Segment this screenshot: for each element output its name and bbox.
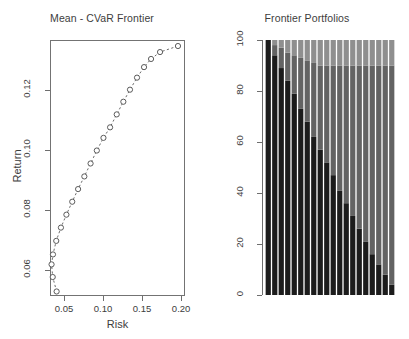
portfolio-bar-segment <box>305 60 310 121</box>
portfolio-bar-segment <box>376 264 381 295</box>
frontier-point <box>101 135 106 140</box>
portfolio-y-tick-label: 60 <box>234 126 245 156</box>
portfolio-bar-segment <box>298 40 303 58</box>
portfolio-bar-segment <box>285 53 290 81</box>
y-tick-mark <box>45 150 50 151</box>
portfolio-bar-segment <box>370 40 375 66</box>
y-tick-label: 0.08 <box>21 193 32 225</box>
portfolio-bar-segment <box>337 190 342 295</box>
portfolio-bar-segment <box>389 66 394 285</box>
portfolio-bar-segment <box>311 137 316 295</box>
portfolio-bar-segment <box>337 66 342 191</box>
portfolio-y-axis-line <box>262 40 263 295</box>
frontier-point <box>82 174 87 179</box>
portfolio-y-tick-label: 100 <box>234 24 245 54</box>
portfolio-bar-segment <box>383 66 388 275</box>
portfolio-bar-segment <box>363 241 368 295</box>
portfolio-bar-segment <box>389 285 394 295</box>
portfolio-bar-segment <box>279 68 284 295</box>
portfolio-bar-segment <box>272 40 277 45</box>
portfolio-y-tick-mark <box>257 244 262 245</box>
frontier-data-points <box>49 43 181 294</box>
frontier-point <box>70 199 75 204</box>
portfolio-bar-segment <box>305 40 310 60</box>
frontier-point <box>64 212 69 217</box>
frontier-point <box>50 274 55 279</box>
frontier-point <box>141 65 146 70</box>
frontier-point <box>54 289 59 294</box>
frontier-point <box>148 56 153 61</box>
portfolio-bar-segment <box>279 48 284 68</box>
frontier-point <box>121 99 126 104</box>
portfolio-bar-segment <box>370 66 375 255</box>
portfolio-bar-segment <box>357 66 362 229</box>
x-tick-label: 0.15 <box>122 303 162 314</box>
x-tick-label: 0.05 <box>44 303 84 314</box>
portfolio-bar-segment <box>389 40 394 66</box>
y-tick-label: 0.12 <box>21 72 32 104</box>
portfolio-y-tick-label: 20 <box>234 228 245 258</box>
frontier-point <box>75 186 80 191</box>
portfolio-y-tick-label: 80 <box>234 75 245 105</box>
frontier-point <box>94 148 99 153</box>
portfolio-bar-segment <box>318 66 323 150</box>
portfolio-bar-segment <box>344 203 349 295</box>
portfolio-bar-segment <box>383 40 388 66</box>
portfolio-bar-segment <box>318 40 323 66</box>
portfolio-y-tick-mark <box>257 295 262 296</box>
left-panel-title: Mean - CVaR Frontier <box>0 12 204 24</box>
portfolio-y-tick-mark <box>257 142 262 143</box>
y-tick-mark <box>45 90 50 91</box>
portfolio-bar-segment <box>292 94 297 295</box>
portfolio-bar-segment <box>350 66 355 216</box>
portfolio-bar-segment <box>344 66 349 204</box>
portfolio-bar-segment <box>324 66 329 163</box>
portfolio-bar-segment <box>363 66 368 242</box>
mean-cvar-frontier-panel: Mean - CVaR Frontier 0.060.080.100.120.0… <box>0 0 204 339</box>
portfolio-y-tick-mark <box>257 91 262 92</box>
portfolio-bar-segment <box>285 81 290 295</box>
y-axis-title-return: Return <box>11 136 23 196</box>
portfolio-bar-segment <box>363 40 368 66</box>
portfolio-bar-segment <box>292 40 297 55</box>
portfolio-bar-segment <box>376 40 381 66</box>
x-tick-mark <box>103 296 104 301</box>
portfolio-bar-segment <box>370 254 375 295</box>
x-axis-title-risk: Risk <box>50 318 185 330</box>
portfolio-bar-segment <box>331 175 336 295</box>
frontier-path <box>52 46 178 291</box>
portfolio-plot-background <box>265 40 395 295</box>
portfolio-bar-segment <box>331 66 336 176</box>
frontier-point <box>58 225 63 230</box>
portfolio-bar-segment <box>298 109 303 295</box>
portfolio-bar-segment <box>279 40 284 48</box>
portfolio-stacked-bars-svg <box>265 40 395 295</box>
x-tick-label: 0.10 <box>83 303 123 314</box>
x-tick-mark <box>142 296 143 301</box>
portfolio-bar-segment <box>311 63 316 137</box>
frontier-dashed-line <box>52 46 178 291</box>
frontier-point <box>114 112 119 117</box>
portfolio-bar-segment <box>324 162 329 295</box>
portfolio-bar-segment <box>324 40 329 66</box>
portfolio-y-tick-label: 40 <box>234 177 245 207</box>
frontier-point <box>88 161 93 166</box>
frontier-scatter-svg <box>50 40 185 296</box>
y-tick-label: 0.06 <box>21 253 32 285</box>
portfolio-y-tick-label: 0 <box>234 279 245 309</box>
frontier-portfolios-panel: Frontier Portfolios 020406080100 <box>205 0 409 339</box>
portfolio-y-tick-mark <box>257 40 262 41</box>
right-panel-title: Frontier Portfolios <box>205 12 409 24</box>
portfolio-bar-segment <box>266 40 271 295</box>
portfolio-bar-segment <box>350 40 355 66</box>
frontier-point <box>157 49 162 54</box>
portfolio-bar-segment <box>311 40 316 63</box>
frontier-point <box>134 75 139 80</box>
portfolio-bar-segment <box>337 40 342 66</box>
portfolio-bar-segment <box>383 275 388 295</box>
portfolio-bar-segment <box>331 40 336 66</box>
portfolio-bar-segment <box>357 229 362 295</box>
portfolio-bar-segment <box>344 40 349 66</box>
frontier-point <box>54 238 59 243</box>
frontier-point <box>107 125 112 130</box>
